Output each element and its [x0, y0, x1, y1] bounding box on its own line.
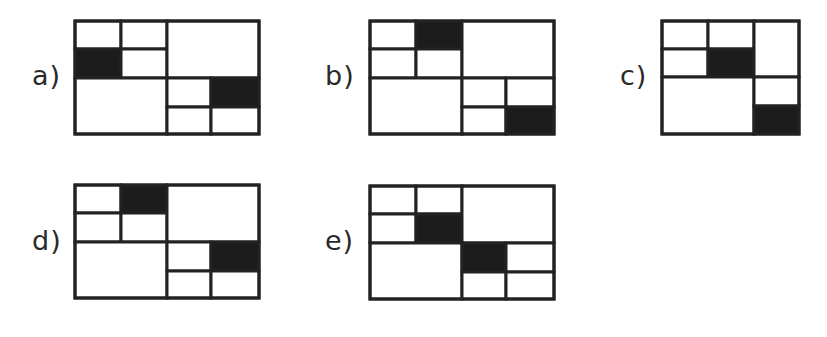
empty-cell-bl [662, 77, 754, 134]
empty-cell-tr [462, 186, 554, 243]
empty-cell-tl-a [75, 185, 121, 213]
empty-cell-br-c [167, 107, 211, 134]
empty-cell-tl-a [370, 186, 416, 214]
empty-cell-tl-a [370, 21, 416, 49]
filled-cell-tl-c [75, 49, 121, 78]
empty-cell-br-a [462, 78, 506, 107]
empty-cell-tl-c [662, 49, 708, 77]
empty-cell-br-b [506, 78, 554, 107]
grid-svg [75, 21, 259, 134]
empty-cell-tl-a [662, 21, 708, 49]
empty-cell-r-mid [754, 77, 799, 106]
empty-cell-br-d [211, 271, 259, 298]
empty-cell-r-top [754, 21, 799, 77]
empty-cell-br-a [167, 78, 211, 107]
empty-cell-tl-b [708, 21, 754, 49]
filled-cell-tl-b [121, 185, 167, 213]
empty-cell-br-a [167, 242, 211, 271]
grid-svg [370, 186, 554, 299]
empty-cell-tl-b [416, 186, 462, 214]
empty-cell-bl [370, 243, 462, 299]
option-label: e) [325, 227, 354, 254]
empty-cell-tl-c [75, 213, 121, 242]
option-label: d) [32, 227, 62, 254]
option-label: c) [620, 62, 647, 89]
empty-cell-tl-c [370, 214, 416, 243]
option-label: a) [32, 62, 61, 89]
filled-cell-tl-b [416, 21, 462, 49]
filled-cell-tl-d [708, 49, 754, 77]
empty-cell-br-b [506, 243, 554, 272]
grid-svg [75, 185, 259, 298]
empty-cell-br-c [167, 271, 211, 298]
empty-cell-br-d [506, 272, 554, 299]
empty-cell-tr [462, 21, 554, 78]
empty-cell-br-c [462, 107, 506, 134]
option-label: b) [325, 62, 355, 89]
empty-cell-tl-b [121, 21, 167, 49]
grid-figure-c [662, 21, 799, 134]
filled-cell-br-d [506, 107, 554, 134]
empty-cell-bl [370, 78, 462, 134]
empty-cell-br-c [462, 272, 506, 299]
empty-cell-tl-d [121, 213, 167, 242]
grid-figure-d [75, 185, 259, 298]
empty-cell-tl-d [416, 49, 462, 78]
grid-figure-a [75, 21, 259, 134]
filled-cell-tl-d [416, 214, 462, 243]
empty-cell-tr [167, 185, 259, 242]
empty-cell-tl-c [370, 49, 416, 78]
filled-cell-r-bot [754, 106, 799, 134]
grid-figure-b [370, 21, 554, 134]
empty-cell-tr [167, 21, 259, 78]
grid-figure-e [370, 186, 554, 299]
empty-cell-bl [75, 78, 167, 134]
empty-cell-tl-a [75, 21, 121, 49]
empty-cell-bl [75, 242, 167, 298]
filled-cell-br-a [462, 243, 506, 272]
empty-cell-br-d [211, 107, 259, 134]
filled-cell-br-b [211, 242, 259, 271]
grid-svg [370, 21, 554, 134]
filled-cell-br-b [211, 78, 259, 107]
grid-svg [662, 21, 799, 134]
empty-cell-tl-d [121, 49, 167, 78]
